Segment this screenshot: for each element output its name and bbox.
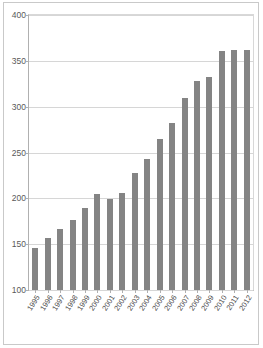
chart-container: 100150200250300350400 199519961997199819…: [3, 2, 259, 345]
gridline: [29, 290, 253, 291]
bar: [45, 238, 51, 290]
bar-slot: 2011: [228, 15, 240, 290]
bar: [194, 81, 200, 290]
bar-slot: 2000: [91, 15, 103, 290]
bar-slot: 1995: [29, 15, 41, 290]
bar: [157, 139, 163, 290]
y-tick-label: 100: [12, 286, 26, 295]
y-tick-label: 150: [12, 240, 26, 249]
bar: [70, 220, 76, 290]
bar-slot: 2004: [141, 15, 153, 290]
bar: [219, 51, 225, 290]
bar-slot: 2006: [166, 15, 178, 290]
bar: [182, 98, 188, 291]
x-tick-mark: [147, 290, 148, 293]
x-tick-mark: [234, 290, 235, 293]
bar-slot: 2008: [191, 15, 203, 290]
bar: [244, 50, 250, 290]
bar: [231, 50, 237, 290]
bar-slot: 2010: [216, 15, 228, 290]
x-tick-mark: [122, 290, 123, 293]
bar-slot: 1998: [66, 15, 78, 290]
bar: [82, 208, 88, 291]
x-tick-mark: [185, 290, 186, 293]
x-tick-mark: [60, 290, 61, 293]
bar-slot: 2012: [241, 15, 253, 290]
x-tick-mark: [35, 290, 36, 293]
x-tick-label: 2012: [238, 294, 253, 312]
bar: [206, 77, 212, 290]
bar: [57, 229, 63, 290]
x-tick-label: 1995: [26, 294, 41, 312]
y-tick-label: 350: [12, 57, 26, 66]
bar-slot: 2003: [129, 15, 141, 290]
bar-slot: 2005: [153, 15, 165, 290]
x-tick-mark: [85, 290, 86, 293]
x-tick-mark: [209, 290, 210, 293]
x-tick-mark: [48, 290, 49, 293]
x-tick-mark: [97, 290, 98, 293]
bar-slot: 1997: [54, 15, 66, 290]
bar-slot: 2002: [116, 15, 128, 290]
bar-slot: 1996: [41, 15, 53, 290]
bar: [119, 193, 125, 290]
y-tick-label: 400: [12, 11, 26, 20]
bar: [169, 123, 175, 290]
x-tick-mark: [222, 290, 223, 293]
bar-slot: 2001: [104, 15, 116, 290]
bar-slot: 2007: [178, 15, 190, 290]
x-tick-label: 2011: [226, 294, 241, 312]
bar-slot: 2009: [203, 15, 215, 290]
x-tick-mark: [197, 290, 198, 293]
x-tick-mark: [160, 290, 161, 293]
x-tick-mark: [73, 290, 74, 293]
x-tick-mark: [110, 290, 111, 293]
chart-title: [4, 2, 258, 8]
y-tick-label: 250: [12, 148, 26, 157]
x-tick-mark: [247, 290, 248, 293]
y-tick-mark: [26, 290, 29, 291]
y-tick-label: 300: [12, 102, 26, 111]
bar-slot: 1999: [79, 15, 91, 290]
bar: [32, 248, 38, 290]
bar: [107, 199, 113, 290]
x-tick-mark: [135, 290, 136, 293]
x-tick-mark: [172, 290, 173, 293]
bar-series: 1995199619971998199920002001200220032004…: [29, 15, 253, 290]
bar: [144, 159, 150, 290]
bar: [132, 173, 138, 290]
bar: [94, 194, 100, 290]
plot-area: 100150200250300350400 199519961997199819…: [28, 14, 254, 291]
y-tick-label: 200: [12, 194, 26, 203]
